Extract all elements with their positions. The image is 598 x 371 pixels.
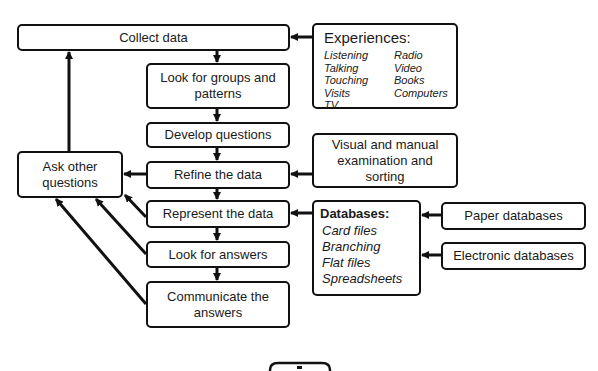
refine-data-box: Refine the data bbox=[146, 161, 290, 189]
experience-item: Touching bbox=[324, 74, 394, 87]
visual-label-1: Visual and manual bbox=[332, 137, 439, 153]
paper-databases-label: Paper databases bbox=[464, 208, 562, 224]
develop-questions-label: Develop questions bbox=[165, 127, 272, 143]
develop-questions-box: Develop questions bbox=[146, 122, 290, 148]
represent-data-label: Represent the data bbox=[163, 206, 274, 222]
ask-label-1: Ask other bbox=[42, 159, 98, 175]
communicate-label-2: answers bbox=[167, 305, 269, 321]
electronic-databases-box: Electronic databases bbox=[441, 242, 586, 270]
visual-label-3: sorting bbox=[332, 169, 439, 185]
experiences-title: Experiences: bbox=[324, 29, 456, 47]
database-item: Flat files bbox=[320, 255, 419, 271]
communicate-label-1: Communicate the bbox=[167, 289, 269, 305]
experiences-box: Experiences: Listening Radio Talking Vid… bbox=[312, 23, 458, 109]
experience-item: Listening bbox=[324, 49, 394, 62]
experience-item: Visits bbox=[324, 87, 394, 100]
refine-data-label: Refine the data bbox=[174, 167, 262, 183]
database-item: Card files bbox=[320, 223, 419, 239]
represent-data-box: Represent the data bbox=[146, 200, 290, 228]
experience-item: Talking bbox=[324, 62, 394, 75]
ask-label-2: questions bbox=[42, 175, 98, 191]
electronic-databases-label: Electronic databases bbox=[453, 248, 574, 264]
collect-data-label: Collect data bbox=[119, 30, 188, 46]
experience-item: TV bbox=[324, 99, 394, 112]
experience-item: Video bbox=[394, 62, 464, 75]
visual-label-2: examination and bbox=[332, 153, 439, 169]
databases-title: Databases: bbox=[320, 206, 419, 222]
look-for-groups-box: Look for groups and patterns bbox=[146, 63, 290, 109]
experiences-list: Listening Radio Talking Video Touching B… bbox=[324, 49, 456, 112]
visual-examination-box: Visual and manual examination and sortin… bbox=[312, 133, 458, 188]
collect-data-box: Collect data bbox=[17, 24, 290, 51]
database-item: Branching bbox=[320, 239, 419, 255]
look-for-answers-label: Look for answers bbox=[169, 247, 268, 263]
look-for-groups-label-2: patterns bbox=[160, 86, 276, 102]
look-for-answers-box: Look for answers bbox=[146, 241, 290, 268]
paper-databases-box: Paper databases bbox=[441, 202, 586, 230]
experience-item: Books bbox=[394, 74, 464, 87]
databases-box: Databases: Card files Branching Flat fil… bbox=[312, 200, 421, 296]
look-for-groups-label-1: Look for groups and bbox=[160, 70, 276, 86]
experience-item: Computers bbox=[394, 87, 464, 100]
database-item: Spreadsheets bbox=[320, 271, 419, 287]
experience-item: Radio bbox=[394, 49, 464, 62]
communicate-answers-box: Communicate the answers bbox=[146, 281, 290, 328]
ask-other-questions-box: Ask other questions bbox=[17, 151, 123, 198]
